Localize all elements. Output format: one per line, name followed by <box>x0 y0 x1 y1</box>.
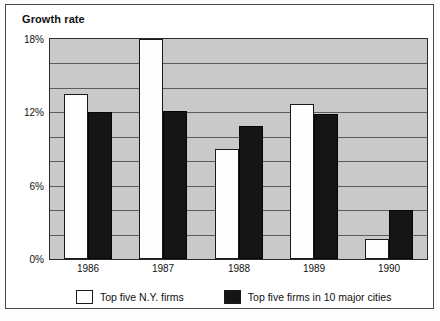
x-axis-tick-label: 1989 <box>303 263 325 274</box>
chart-legend: Top five N.Y. firms Top five firms in 10… <box>49 286 428 308</box>
plot-area <box>49 38 428 260</box>
x-axis-tick-label: 1990 <box>378 263 400 274</box>
legend-label-major-cities: Top five firms in 10 major cities <box>248 291 392 303</box>
bar-1987-series1 <box>163 111 187 259</box>
bar-1989-series0 <box>290 104 314 259</box>
figure-container: Growth rate 0%6%12%18% 19861987198819891… <box>0 0 440 321</box>
bar-1988-series0 <box>215 149 239 259</box>
gridline <box>50 88 427 89</box>
legend-item-ny-firms: Top five N.Y. firms <box>76 290 184 304</box>
y-axis-tick-label: 18% <box>24 34 44 45</box>
gridline <box>50 63 427 64</box>
y-axis-tick-label: 0% <box>30 254 44 265</box>
bar-1989-series1 <box>314 114 338 259</box>
x-axis-tick-label: 1987 <box>152 263 174 274</box>
bar-1986-series0 <box>64 94 88 259</box>
x-axis-tick-label: 1988 <box>228 263 250 274</box>
bar-1986-series1 <box>88 112 112 259</box>
legend-item-major-cities: Top five firms in 10 major cities <box>224 290 392 304</box>
bar-1987-series0 <box>139 39 163 259</box>
bar-1990-series0 <box>365 239 389 259</box>
bar-1988-series1 <box>239 126 263 259</box>
plot-inner <box>50 39 427 259</box>
black-swatch-icon <box>224 290 241 304</box>
y-axis-tick-label: 6% <box>30 180 44 191</box>
x-axis-tick-label: 1986 <box>77 263 99 274</box>
figure-border: Growth rate 0%6%12%18% 19861987198819891… <box>5 4 434 309</box>
y-axis-tick-label: 12% <box>24 107 44 118</box>
x-axis-ticks: 19861987198819891990 <box>49 263 428 279</box>
white-swatch-icon <box>76 290 93 304</box>
legend-label-ny-firms: Top five N.Y. firms <box>100 291 184 303</box>
bar-1990-series1 <box>389 210 413 259</box>
chart-title: Growth rate <box>22 13 85 25</box>
